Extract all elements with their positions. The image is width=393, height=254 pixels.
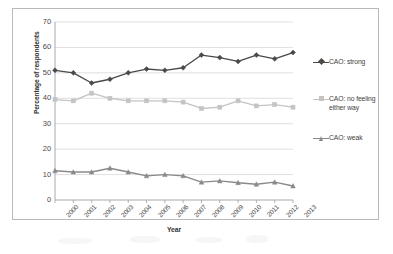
data-point-marker [272, 56, 277, 61]
scan-artifact [58, 238, 92, 244]
data-point-marker [126, 99, 130, 103]
x-axis-tick-label: 2000 [65, 204, 80, 219]
legend-marker-diamond-icon [313, 58, 329, 66]
legend-item[interactable]: CAO: weak [313, 133, 387, 142]
y-axis-tick-label: 20 [43, 145, 51, 153]
data-point-marker [236, 99, 240, 103]
data-point-marker [89, 81, 94, 86]
data-point-marker [217, 55, 222, 60]
x-axis-tick-label: 2010 [248, 204, 263, 219]
x-axis-tick-label: 2009 [230, 204, 245, 219]
legend-marker-square-icon [313, 95, 329, 103]
data-point-marker [163, 99, 167, 103]
data-point-marker [107, 77, 112, 82]
x-axis-tick-label: 2013 [303, 204, 318, 219]
legend-item[interactable]: CAO: strong [313, 57, 387, 66]
x-axis-tick-label: 2002 [102, 204, 117, 219]
data-point-marker [71, 99, 75, 103]
data-point-marker [291, 50, 296, 55]
legend-label: CAO: weak [329, 133, 362, 142]
x-axis-tick-label: 2007 [193, 204, 208, 219]
data-point-marker [218, 105, 222, 109]
data-point-marker [90, 91, 94, 95]
plot-svg [55, 22, 293, 200]
data-point-marker [273, 103, 277, 107]
data-point-marker [126, 70, 131, 75]
x-axis-title: Year [55, 226, 293, 233]
data-point-marker [162, 68, 167, 73]
y-axis-tick-label: 70 [43, 18, 51, 26]
figure-container: Percentage of respondents 01020304050607… [0, 0, 393, 254]
data-point-marker [144, 67, 149, 72]
scan-artifact [130, 236, 160, 243]
data-point-marker [71, 70, 76, 75]
chart-frame: Percentage of respondents 01020304050607… [12, 8, 379, 220]
legend-label: CAO: strong [329, 57, 365, 66]
x-axis-tick-label: 2011 [266, 204, 280, 218]
scan-artifact [246, 235, 268, 243]
data-point-marker [291, 105, 295, 109]
y-axis-tick-label: 40 [43, 95, 51, 103]
series-line [55, 53, 293, 84]
data-point-marker [254, 53, 259, 58]
data-point-marker [236, 59, 241, 64]
y-axis-tick-label: 60 [43, 44, 51, 52]
data-point-marker [199, 106, 203, 110]
x-axis-tick-label: 2008 [212, 204, 227, 219]
y-axis-tick-label: 50 [43, 69, 51, 77]
data-point-marker [145, 99, 149, 103]
x-axis-tick-label: 2006 [175, 204, 190, 219]
legend-item[interactable]: CAO: no feeling either way [313, 94, 387, 113]
x-axis-tick-label: 2012 [285, 204, 300, 219]
y-axis-tick-label: 10 [43, 171, 51, 179]
data-point-marker [53, 98, 57, 102]
y-axis-tick-label: 30 [43, 120, 51, 128]
x-axis-tick-label: 2005 [157, 204, 172, 219]
y-axis-title: Percentage of respondents [33, 31, 40, 114]
x-axis-tick-label: 2001 [83, 204, 98, 219]
legend-label: CAO: no feeling either way [329, 94, 387, 113]
data-point-marker [254, 104, 258, 108]
scan-artifact [196, 237, 222, 243]
y-axis-tick-label: 0 [47, 196, 51, 204]
plot-area: 010203040506070 200020012002200320042005… [55, 22, 293, 200]
data-point-marker [53, 68, 58, 73]
series-layer [53, 50, 296, 188]
x-axis-tick-label: 2004 [138, 204, 153, 219]
data-point-marker [108, 96, 112, 100]
legend-marker-triangle-icon [313, 134, 329, 142]
gridlines [55, 22, 293, 175]
data-point-marker [181, 100, 185, 104]
x-axis-tick-label: 2003 [120, 204, 135, 219]
